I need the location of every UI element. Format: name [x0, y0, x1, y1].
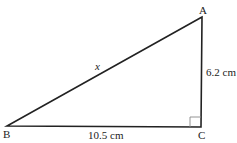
side-label-hypotenuse: x	[94, 60, 100, 72]
side-label-bc: 10.5 cm	[88, 129, 124, 141]
vertex-label-b: B	[3, 128, 10, 140]
right-angle-marker	[190, 117, 201, 127]
triangle-abc	[7, 17, 202, 127]
side-label-ac: 6.2 cm	[206, 66, 236, 78]
vertex-label-a: A	[199, 4, 207, 16]
triangle-diagram: A B C x 6.2 cm 10.5 cm	[0, 0, 237, 143]
vertex-label-c: C	[198, 129, 205, 141]
